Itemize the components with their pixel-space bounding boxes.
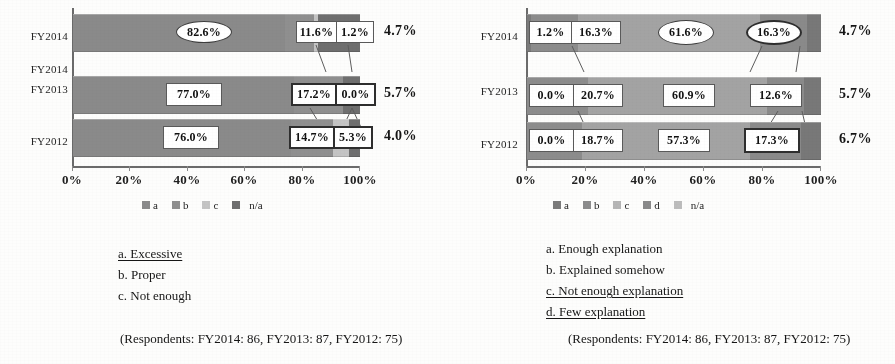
right-segment-na-fy2014 bbox=[807, 14, 821, 52]
right-value-a-fy2013: 0.0% bbox=[529, 84, 573, 107]
right-x-tick-60 bbox=[703, 166, 704, 171]
left-x-axis bbox=[72, 166, 360, 168]
right-legend-item-d: d bbox=[643, 199, 660, 211]
left-legend-label-a: a bbox=[153, 199, 158, 211]
right-x-tick-0 bbox=[526, 166, 527, 171]
left-legend-swatch-c-icon bbox=[202, 201, 210, 209]
left-x-ticklabel-0: 0% bbox=[52, 172, 92, 188]
left-legend-item-b: b bbox=[172, 199, 189, 211]
left-x-tick-60 bbox=[244, 166, 245, 171]
right-outside-value-fy2012: 6.7% bbox=[839, 131, 872, 147]
right-value-b-fy2012: 18.7% bbox=[573, 129, 623, 152]
right-segment-na-fy2012 bbox=[801, 122, 821, 160]
right-x-ticklabel-20: 20% bbox=[565, 172, 605, 188]
right-caption-item-a: a. Enough explanation bbox=[546, 238, 683, 259]
left-legend-label-na: n/a bbox=[249, 199, 262, 211]
right-value-d-fy2012: 17.3% bbox=[744, 128, 800, 153]
right-legend-swatch-a-icon bbox=[553, 201, 561, 209]
left-value-c-fy2012: 5.3% bbox=[333, 126, 373, 149]
right-row-label-fy2014: FY2014 bbox=[458, 30, 518, 42]
left-x-tick-100 bbox=[359, 166, 360, 171]
left-x-tick-40 bbox=[187, 166, 188, 171]
right-value-b-fy2014: 16.3% bbox=[571, 21, 621, 44]
left-respondents-note: (Respondents: FY2014: 86, FY2013: 87, FY… bbox=[120, 331, 402, 347]
right-legend-item-b: b bbox=[583, 199, 600, 211]
left-legend-swatch-na-icon bbox=[232, 201, 240, 209]
right-x-tick-40 bbox=[644, 166, 645, 171]
right-value-a-fy2012: 0.0% bbox=[529, 129, 573, 152]
left-x-ticklabel-60: 60% bbox=[224, 172, 264, 188]
left-value-b-fy2012: 14.7% bbox=[289, 126, 333, 149]
left-legend-item-c: c bbox=[202, 199, 218, 211]
left-legend-swatch-a-icon bbox=[142, 201, 150, 209]
left-value-b-fy2014: 11.6% bbox=[296, 21, 336, 43]
left-x-tick-20 bbox=[129, 166, 130, 171]
left-x-ticklabel-80: 80% bbox=[282, 172, 322, 188]
figure-container: FY2014 FY2014 FY2013 FY2012 82.6% 11.6% … bbox=[0, 0, 895, 364]
right-respondents-note: (Respondents: FY2014: 86, FY2013: 87, FY… bbox=[568, 331, 850, 347]
right-value-d-fy2014: 16.3% bbox=[746, 20, 802, 45]
left-outside-value-fy2013: 5.7% bbox=[384, 85, 417, 101]
right-legend-label-a: a bbox=[564, 199, 569, 211]
right-value-d-fy2013: 12.6% bbox=[750, 84, 802, 107]
right-caption-text-c: c. Not enough explanation bbox=[546, 283, 683, 298]
right-x-tick-80 bbox=[762, 166, 763, 171]
right-caption-item-b: b. Explained somehow bbox=[546, 259, 683, 280]
left-legend-label-c: c bbox=[213, 199, 218, 211]
left-legend-item-a: a bbox=[142, 199, 158, 211]
left-value-a-fy2013: 77.0% bbox=[166, 83, 222, 106]
right-row-label-fy2013: FY2013 bbox=[458, 85, 518, 97]
left-row-label-extra-fy2014: FY2014 bbox=[8, 63, 68, 75]
right-legend-swatch-b-icon bbox=[583, 201, 591, 209]
right-value-c-fy2013: 60.9% bbox=[663, 84, 715, 107]
right-legend-label-na: n/a bbox=[691, 199, 704, 211]
left-legend-label-b: b bbox=[183, 199, 189, 211]
left-caption-item-a: a. Excessive bbox=[118, 243, 191, 264]
left-value-c-fy2013: 0.0% bbox=[335, 83, 376, 106]
right-caption-item-c: c. Not enough explanation bbox=[546, 280, 683, 301]
right-outside-value-fy2014: 4.7% bbox=[839, 23, 872, 39]
right-legend-label-b: b bbox=[594, 199, 600, 211]
right-value-c-fy2012: 57.3% bbox=[658, 129, 710, 152]
left-x-ticklabel-100: 100% bbox=[337, 172, 383, 188]
left-legend: a b c n/a bbox=[142, 199, 277, 211]
left-row-label-fy2014: FY2014 bbox=[8, 30, 68, 42]
right-chart-panel: FY2014 FY2013 FY2012 1.2% 16.3% 61.6% 16… bbox=[450, 0, 895, 364]
left-value-c-fy2014: 1.2% bbox=[336, 21, 374, 43]
left-x-ticklabel-40: 40% bbox=[167, 172, 207, 188]
left-x-tick-0 bbox=[72, 166, 73, 171]
right-x-ticklabel-0: 0% bbox=[506, 172, 546, 188]
right-x-ticklabel-40: 40% bbox=[624, 172, 664, 188]
right-x-tick-100 bbox=[820, 166, 821, 171]
right-caption-text-d: d. Few explanation bbox=[546, 304, 645, 319]
right-legend-item-na: n/a bbox=[674, 199, 704, 211]
left-x-tick-80 bbox=[302, 166, 303, 171]
left-caption-text-a: a. Excessive bbox=[118, 246, 182, 261]
left-legend-item-na: n/a bbox=[232, 199, 262, 211]
right-caption: a. Enough explanation b. Explained someh… bbox=[546, 238, 683, 322]
right-caption-item-d: d. Few explanation bbox=[546, 301, 683, 322]
left-caption-item-c: c. Not enough bbox=[118, 285, 191, 306]
left-row-label-fy2012: FY2012 bbox=[8, 135, 68, 147]
right-legend-label-c: c bbox=[624, 199, 629, 211]
right-value-b-fy2013: 20.7% bbox=[573, 84, 623, 107]
right-x-ticklabel-60: 60% bbox=[683, 172, 723, 188]
right-x-ticklabel-100: 100% bbox=[798, 172, 844, 188]
left-value-a-fy2012: 76.0% bbox=[163, 126, 219, 149]
left-value-b-fy2013: 17.2% bbox=[291, 83, 335, 106]
right-legend-item-a: a bbox=[553, 199, 569, 211]
right-legend-item-c: c bbox=[613, 199, 629, 211]
left-row-label-fy2013: FY2013 bbox=[8, 83, 68, 95]
right-x-axis bbox=[526, 166, 821, 168]
right-legend-swatch-d-icon bbox=[643, 201, 651, 209]
right-value-a-fy2014: 1.2% bbox=[529, 21, 571, 44]
right-outside-value-fy2013: 5.7% bbox=[839, 86, 872, 102]
left-chart-panel: FY2014 FY2014 FY2013 FY2012 82.6% 11.6% … bbox=[0, 0, 450, 364]
right-legend-label-d: d bbox=[654, 199, 660, 211]
left-caption: a. Excessive b. Proper c. Not enough bbox=[118, 243, 191, 306]
left-legend-swatch-b-icon bbox=[172, 201, 180, 209]
left-outside-value-fy2014: 4.7% bbox=[384, 23, 417, 39]
left-value-a-fy2014: 82.6% bbox=[176, 21, 232, 43]
right-segment-na-fy2013 bbox=[804, 77, 821, 115]
right-value-c-fy2014: 61.6% bbox=[658, 20, 714, 45]
